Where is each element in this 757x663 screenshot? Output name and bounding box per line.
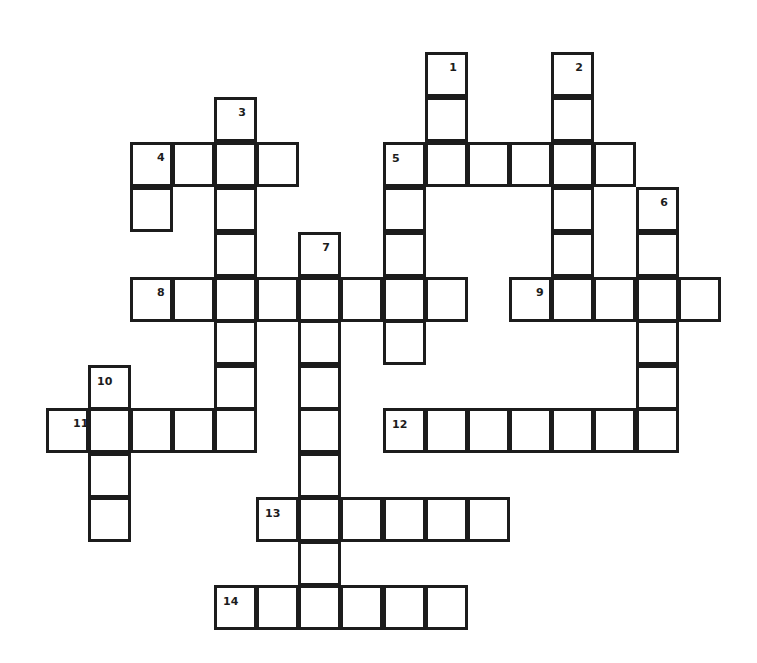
crossword-cell[interactable] (551, 408, 594, 453)
clue-number: 2 (575, 61, 583, 74)
clue-number: 3 (238, 106, 246, 119)
crossword-cell[interactable] (551, 97, 594, 142)
crossword-cell[interactable] (256, 142, 299, 187)
crossword-cell[interactable] (130, 187, 173, 232)
crossword-cell[interactable] (340, 277, 383, 322)
crossword-cell[interactable] (383, 497, 426, 542)
crossword-cell-13[interactable]: 13 (256, 497, 299, 542)
crossword-cell[interactable] (214, 232, 257, 277)
crossword-cell[interactable] (214, 187, 257, 232)
crossword-cell[interactable] (172, 408, 215, 453)
crossword-cell[interactable] (88, 453, 131, 498)
crossword-cell[interactable] (425, 585, 468, 630)
crossword-cell[interactable] (425, 97, 468, 142)
crossword-cell[interactable] (256, 277, 299, 322)
crossword-cell[interactable] (383, 585, 426, 630)
crossword-cell[interactable] (551, 187, 594, 232)
crossword-cell[interactable] (467, 408, 510, 453)
crossword-cell[interactable] (340, 497, 383, 542)
crossword-cell[interactable] (214, 408, 257, 453)
clue-number: 10 (97, 375, 112, 388)
crossword-cell-6[interactable]: 6 (636, 187, 679, 232)
crossword-cell-7[interactable]: 7 (298, 232, 341, 277)
crossword-cell-9[interactable]: 9 (509, 277, 552, 322)
crossword-cell-8[interactable]: 8 (130, 277, 173, 322)
crossword-cell-11[interactable]: 11 (46, 408, 89, 453)
crossword-cell-14[interactable]: 14 (214, 585, 257, 630)
clue-number: 6 (660, 196, 668, 209)
crossword-cell[interactable] (636, 408, 679, 453)
crossword-cell[interactable] (678, 277, 721, 322)
crossword-cell[interactable] (298, 320, 341, 365)
crossword-cell[interactable] (551, 142, 594, 187)
clue-number: 7 (322, 241, 330, 254)
crossword-cell[interactable] (383, 187, 426, 232)
crossword-cell[interactable] (467, 142, 510, 187)
crossword-cell[interactable] (636, 277, 679, 322)
crossword-cell[interactable] (298, 408, 341, 453)
crossword-cell[interactable] (298, 365, 341, 410)
crossword-cell[interactable] (256, 585, 299, 630)
crossword-cell-3[interactable]: 3 (214, 97, 257, 142)
crossword-cell[interactable] (298, 277, 341, 322)
crossword-cell[interactable] (383, 277, 426, 322)
crossword-cell-2[interactable]: 2 (551, 52, 594, 97)
crossword-cell-4[interactable]: 4 (130, 142, 173, 187)
crossword-cell[interactable] (551, 232, 594, 277)
clue-number: 13 (265, 507, 280, 520)
crossword-cell[interactable] (340, 585, 383, 630)
crossword-cell[interactable] (383, 232, 426, 277)
crossword-cell[interactable] (214, 277, 257, 322)
crossword-cell[interactable] (298, 453, 341, 498)
crossword-cell[interactable] (88, 408, 131, 453)
crossword-cell[interactable] (636, 232, 679, 277)
crossword-cell[interactable] (425, 497, 468, 542)
crossword-cell[interactable] (88, 497, 131, 542)
crossword-cell[interactable] (593, 142, 636, 187)
crossword-cell-1[interactable]: 1 (425, 52, 468, 97)
crossword-cell[interactable] (509, 408, 552, 453)
crossword-cell[interactable] (298, 541, 341, 586)
crossword-cell[interactable] (551, 277, 594, 322)
crossword-cell[interactable] (298, 497, 341, 542)
clue-number: 11 (73, 417, 88, 430)
clue-number: 12 (392, 418, 407, 431)
crossword-cell[interactable] (214, 365, 257, 410)
crossword-cell-5[interactable]: 5 (383, 142, 426, 187)
clue-number: 1 (449, 61, 457, 74)
crossword-cell[interactable] (425, 142, 468, 187)
crossword-grid: 1234567891011121314 (0, 0, 757, 663)
crossword-cell[interactable] (467, 497, 510, 542)
crossword-cell-12[interactable]: 12 (383, 408, 426, 453)
crossword-cell[interactable] (425, 408, 468, 453)
crossword-cell[interactable] (298, 585, 341, 630)
crossword-cell[interactable] (214, 142, 257, 187)
clue-number: 4 (157, 151, 165, 164)
clue-number: 14 (223, 595, 238, 608)
crossword-cell[interactable] (425, 277, 468, 322)
crossword-cell[interactable] (636, 320, 679, 365)
clue-number: 5 (392, 152, 400, 165)
crossword-cell-10[interactable]: 10 (88, 365, 131, 410)
crossword-cell[interactable] (509, 142, 552, 187)
clue-number: 8 (157, 286, 165, 299)
crossword-cell[interactable] (383, 320, 426, 365)
crossword-cell[interactable] (593, 408, 636, 453)
crossword-cell[interactable] (593, 277, 636, 322)
clue-number: 9 (536, 286, 544, 299)
crossword-cell[interactable] (172, 277, 215, 322)
crossword-cell[interactable] (130, 408, 173, 453)
crossword-cell[interactable] (636, 365, 679, 410)
crossword-cell[interactable] (214, 320, 257, 365)
crossword-cell[interactable] (172, 142, 215, 187)
